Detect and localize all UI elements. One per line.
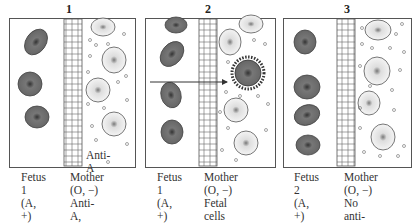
diagram-artwork [0,0,419,223]
fetal-cells [155,17,188,144]
placenta-wall [337,19,355,166]
fetal-cells [291,30,322,155]
maternal-cells [358,20,395,150]
maternal-cells [86,18,126,136]
placenta-wall [64,19,82,166]
placenta-wall [199,19,217,166]
coated-fetal-cell [232,57,264,89]
fetal-cells [18,25,52,128]
